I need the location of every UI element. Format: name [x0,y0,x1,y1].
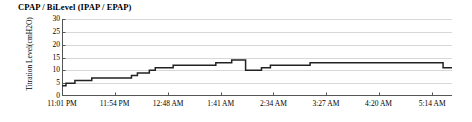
x-tick-label: 2:34 AM [260,100,287,108]
chart-title: CPAP / BiLevel (IPAP / EPAP) [18,2,132,12]
x-axis-tick-labels: 11:01 PM11:54 PM12:48 AM1:41 AM2:34 AM3:… [0,100,472,116]
x-tick-label: 4:20 AM [365,100,392,108]
y-axis-tick-labels: 051015202530 [36,19,60,96]
y-tick-label: 20 [53,41,61,49]
y-tick-label: 15 [53,54,61,62]
x-tick-label: 12:48 AM [153,100,184,108]
y-tick-label: 30 [53,15,61,23]
plot-svg [62,19,452,96]
x-tick-label: 3:27 AM [313,100,340,108]
plot-area [62,19,452,96]
data-series-line [62,60,452,86]
y-tick-label: 10 [53,66,61,74]
x-tick-label: 11:01 PM [47,100,77,108]
y-tick-label: 25 [53,28,61,36]
x-tick-label: 5:14 AM [419,100,446,108]
x-tick-label: 1:41 AM [207,100,234,108]
y-axis-title-line1: Titration Level [26,46,34,91]
y-tick-label: 5 [56,79,60,87]
chart-container: CPAP / BiLevel (IPAP / EPAP) Titration L… [0,0,472,122]
gridlines [62,20,452,84]
y-axis-title-line2: (cmH2O) [26,17,34,46]
x-tick-label: 11:54 PM [100,100,130,108]
